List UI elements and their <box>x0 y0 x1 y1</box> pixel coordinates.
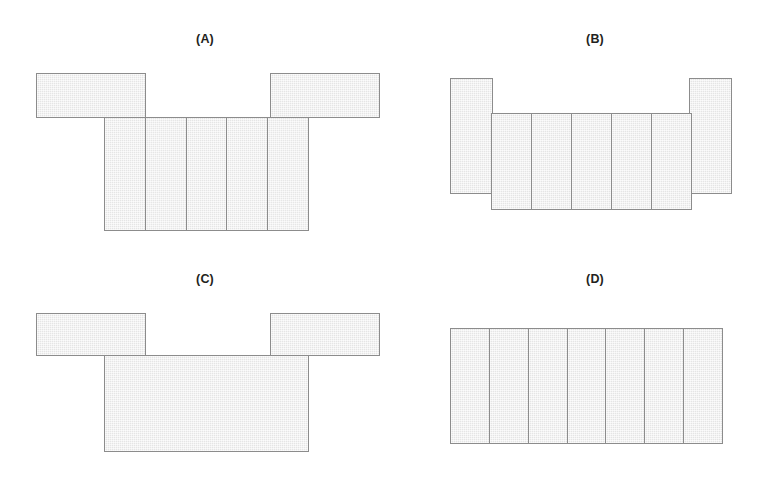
figure-a-top-right-bar <box>270 73 380 118</box>
figure-b-right-tall-bar <box>689 78 732 194</box>
figure-a-top-left-bar <box>36 73 146 118</box>
figure-d-cell <box>450 328 490 444</box>
figure-c-top-right-bar <box>270 313 380 356</box>
figure-b-middle-row <box>491 113 692 210</box>
figure-a-cell <box>186 117 228 231</box>
figure-d-cell <box>567 328 607 444</box>
figure-b-label: (B) <box>586 32 604 46</box>
figure-b-cell <box>611 113 652 210</box>
figure-a-cell <box>104 117 146 231</box>
figure-c-top-left-bar <box>36 313 146 356</box>
figure-b-left-tall-bar <box>450 78 493 194</box>
figure-b-cell <box>531 113 572 210</box>
figure-d-cell <box>489 328 529 444</box>
figure-d-single-row <box>450 328 723 444</box>
figure-a-label: (A) <box>196 32 214 46</box>
figure-d-label: (D) <box>586 272 604 286</box>
figure-c-bottom-block <box>104 355 309 452</box>
figure-a-cell <box>226 117 268 231</box>
figure-d-cell <box>683 328 723 444</box>
figure-a-cell <box>267 117 309 231</box>
figure-b-cell <box>651 113 692 210</box>
figure-c-label: (C) <box>196 272 214 286</box>
figure-b-cell <box>571 113 612 210</box>
figure-a-bottom-row <box>104 117 309 231</box>
figure-a-cell <box>145 117 187 231</box>
figure-canvas: (A) (B) (C) (D) <box>0 0 761 491</box>
figure-d-cell <box>644 328 684 444</box>
figure-b-cell <box>491 113 532 210</box>
figure-d-cell <box>528 328 568 444</box>
figure-d-cell <box>605 328 645 444</box>
